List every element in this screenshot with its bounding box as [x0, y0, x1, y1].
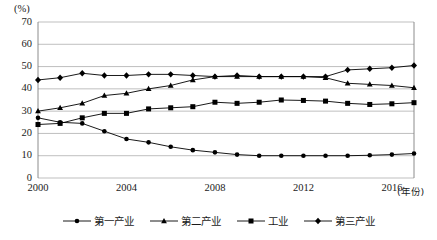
data-point-diamond — [256, 73, 262, 79]
data-point-circle — [124, 137, 129, 142]
line-chart: (%) 706050403020100 20002004200820122016… — [0, 0, 437, 240]
legend-entry[interactable]: 工业 — [236, 213, 288, 228]
data-point-square — [301, 98, 306, 103]
data-point-circle — [80, 121, 85, 126]
data-point-circle — [345, 153, 350, 158]
data-point-square — [389, 101, 394, 106]
data-point-circle — [301, 153, 306, 158]
data-point-square — [257, 100, 262, 105]
data-point-circle — [102, 129, 107, 134]
data-point-diamond — [278, 73, 284, 79]
legend-label: 工业 — [268, 213, 288, 228]
data-point-square — [323, 99, 328, 104]
legend-entry[interactable]: 第二产业 — [149, 213, 221, 228]
data-point-circle — [323, 153, 328, 158]
legend-entry[interactable]: 第一产业 — [62, 213, 134, 228]
legend-marker-circle-icon — [62, 216, 92, 226]
data-point-circle — [257, 153, 262, 158]
data-point-diamond — [411, 62, 417, 68]
data-point-diamond — [168, 71, 174, 77]
legend-entry[interactable]: 第三产业 — [303, 213, 375, 228]
series-4 — [35, 62, 417, 83]
data-point-circle — [191, 148, 196, 153]
data-point-diamond — [79, 70, 85, 76]
data-point-square — [102, 111, 107, 116]
data-point-circle — [75, 218, 80, 223]
data-point-circle — [279, 153, 284, 158]
data-point-circle — [390, 152, 395, 157]
data-point-triangle — [161, 217, 167, 222]
data-point-circle — [412, 151, 417, 156]
data-point-diamond — [101, 72, 107, 78]
series-1 — [36, 116, 417, 158]
plot-area — [0, 0, 437, 240]
data-point-circle — [36, 116, 41, 121]
data-point-square — [124, 111, 129, 116]
data-point-square — [36, 122, 41, 127]
data-point-diamond — [146, 71, 152, 77]
series-line — [38, 118, 414, 156]
data-point-circle — [235, 152, 240, 157]
data-point-square — [190, 104, 195, 109]
legend-marker-square-icon — [236, 216, 266, 226]
data-point-diamond — [315, 217, 321, 223]
data-point-diamond — [57, 75, 63, 81]
data-point-circle — [367, 153, 372, 158]
data-point-diamond — [123, 72, 129, 78]
data-point-square — [367, 102, 372, 107]
chart-legend: 第一产业第二产业工业第三产业 — [0, 213, 437, 228]
data-point-diamond — [345, 67, 351, 73]
data-point-square — [212, 100, 217, 105]
data-point-square — [80, 115, 85, 120]
data-point-diamond — [212, 73, 218, 79]
data-point-square — [279, 98, 284, 103]
data-point-square — [168, 105, 173, 110]
series-3 — [36, 98, 417, 128]
data-point-circle — [168, 145, 173, 150]
series-line — [38, 77, 414, 112]
data-point-square — [249, 218, 254, 223]
data-point-circle — [213, 150, 218, 155]
series-line — [38, 100, 414, 125]
data-point-circle — [146, 140, 151, 145]
data-point-diamond — [190, 72, 196, 78]
legend-marker-diamond-icon — [303, 216, 333, 226]
data-point-diamond — [389, 64, 395, 70]
legend-marker-triangle-icon — [149, 216, 179, 226]
data-point-square — [58, 121, 63, 126]
series-2 — [35, 74, 417, 114]
legend-label: 第一产业 — [94, 213, 134, 228]
legend-label: 第三产业 — [335, 213, 375, 228]
data-point-square — [235, 101, 240, 106]
data-point-diamond — [35, 77, 41, 83]
data-point-square — [345, 101, 350, 106]
data-point-square — [146, 106, 151, 111]
legend-label: 第二产业 — [181, 213, 221, 228]
data-point-square — [412, 100, 417, 105]
data-point-diamond — [300, 73, 306, 79]
series-line — [38, 65, 414, 79]
